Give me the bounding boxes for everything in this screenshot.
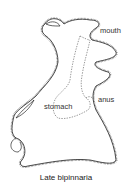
- stomach-label: stomach: [44, 102, 72, 111]
- mouth-label: mouth: [100, 26, 121, 35]
- figure-caption: Late bipinnaria: [40, 173, 93, 182]
- larva-body: [11, 19, 116, 167]
- anus-label: anus: [98, 95, 115, 104]
- bipinnaria-larva-diagram: mouth anus stomach Late bipinnaria: [0, 0, 133, 187]
